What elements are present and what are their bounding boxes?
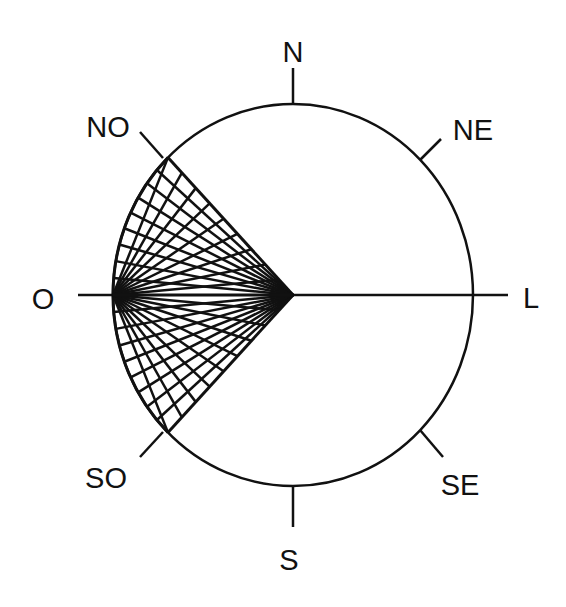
tick-no — [140, 132, 163, 158]
tick-so — [140, 432, 163, 457]
compass-diagram: N NE L SE S SO O NO — [0, 0, 566, 607]
ray-o-upper — [113, 188, 196, 295]
label-ne: NE — [453, 114, 493, 146]
wedge-mesh — [113, 158, 293, 433]
ray-center-lower — [147, 295, 293, 407]
label-so: SO — [85, 462, 127, 494]
label-se: SE — [441, 469, 480, 501]
ray-o-lower — [113, 295, 196, 402]
tick-ne — [420, 139, 441, 160]
label-n: N — [283, 36, 304, 68]
label-no: NO — [86, 111, 130, 143]
direction-labels: N NE L SE S SO O NO — [32, 36, 539, 576]
label-o: O — [32, 283, 55, 315]
label-s: S — [279, 544, 298, 576]
ray-center-upper — [147, 183, 293, 295]
label-l: L — [523, 282, 539, 314]
tick-se — [420, 430, 443, 457]
